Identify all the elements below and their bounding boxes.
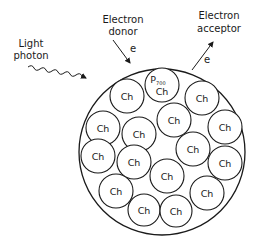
electron-donor-label-line1: Electron — [102, 14, 143, 25]
svg-text:Ch: Ch — [219, 158, 232, 169]
svg-text:Ch: Ch — [196, 93, 209, 104]
chlorophyll: Ch — [157, 103, 191, 137]
chlorophyll: Ch — [176, 132, 210, 166]
electron-in-label: e — [130, 43, 136, 54]
svg-text:Ch: Ch — [187, 144, 200, 155]
svg-text:Ch: Ch — [121, 91, 134, 102]
svg-text:Ch: Ch — [138, 205, 151, 216]
chlorophyll: Ch — [190, 176, 224, 210]
chlorophyll: Ch — [110, 79, 144, 113]
electron-acceptor-label-line2: acceptor — [197, 23, 242, 34]
svg-text:Ch: Ch — [156, 86, 169, 97]
reaction-center-p700: P700 Ch — [145, 68, 179, 102]
photosystem-diagram: Light photon Electron donor Electron acc… — [0, 0, 261, 241]
electron-acceptor-label-line1: Electron — [198, 10, 239, 21]
light-photon-label-line2: photon — [13, 50, 48, 61]
svg-text:Ch: Ch — [219, 122, 232, 133]
chlorophyll: Ch — [208, 110, 242, 144]
svg-text:Ch: Ch — [168, 115, 181, 126]
svg-text:Ch: Ch — [133, 129, 146, 140]
svg-text:Ch: Ch — [170, 206, 183, 217]
electron-donor-label-line2: donor — [108, 26, 138, 37]
electron-out-label: e — [204, 54, 210, 65]
svg-text:Ch: Ch — [92, 151, 105, 162]
chlorophyll: Ch — [208, 146, 242, 180]
svg-text:Ch: Ch — [128, 157, 141, 168]
chlorophyll: Ch — [128, 194, 160, 226]
electron-donor-arrow-icon — [113, 40, 130, 63]
chlorophyll: Ch — [81, 139, 115, 173]
light-photon-label-line1: Light — [19, 38, 44, 49]
chlorophyll: Ch — [160, 195, 192, 227]
chlorophyll: Ch — [99, 174, 133, 208]
svg-text:Ch: Ch — [110, 186, 123, 197]
chlorophyll: Ch — [117, 145, 151, 179]
photon-wave-arrow-icon — [28, 66, 86, 78]
chlorophyll: Ch — [150, 159, 184, 193]
svg-text:Ch: Ch — [97, 123, 110, 134]
svg-text:Ch: Ch — [161, 171, 174, 182]
chlorophyll: Ch — [185, 81, 219, 115]
svg-text:Ch: Ch — [201, 188, 214, 199]
